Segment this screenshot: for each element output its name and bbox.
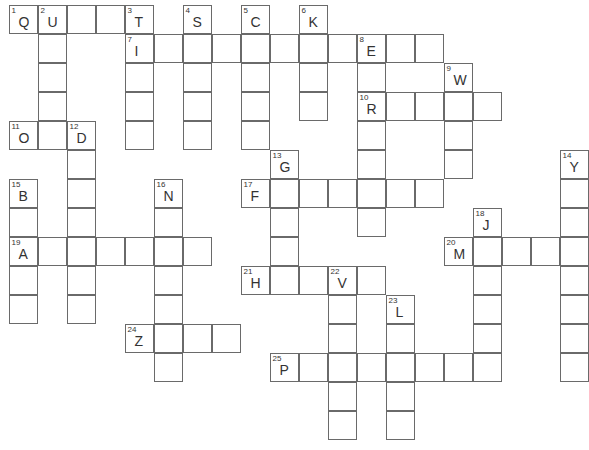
crossword-cell[interactable] (67, 150, 96, 179)
crossword-cell[interactable] (270, 179, 299, 208)
crossword-cell[interactable]: 16N (154, 179, 183, 208)
crossword-cell[interactable] (9, 295, 38, 324)
crossword-cell[interactable] (154, 353, 183, 382)
crossword-cell[interactable] (67, 295, 96, 324)
crossword-cell[interactable]: 19A (9, 237, 38, 266)
crossword-cell[interactable] (473, 353, 502, 382)
crossword-cell[interactable] (38, 34, 67, 63)
crossword-cell[interactable] (357, 121, 386, 150)
crossword-cell[interactable] (415, 34, 444, 63)
crossword-cell[interactable] (38, 121, 67, 150)
crossword-cell[interactable] (299, 266, 328, 295)
crossword-cell[interactable] (38, 237, 67, 266)
crossword-cell[interactable]: 15B (9, 179, 38, 208)
crossword-cell[interactable] (560, 179, 589, 208)
crossword-cell[interactable] (183, 324, 212, 353)
crossword-cell[interactable]: 7I (125, 34, 154, 63)
crossword-cell[interactable] (386, 179, 415, 208)
crossword-cell[interactable] (386, 324, 415, 353)
crossword-cell[interactable]: 4S (183, 5, 212, 34)
crossword-cell[interactable] (212, 34, 241, 63)
crossword-cell[interactable] (154, 266, 183, 295)
crossword-cell[interactable]: 1Q (9, 5, 38, 34)
crossword-cell[interactable] (560, 237, 589, 266)
crossword-cell[interactable] (125, 121, 154, 150)
crossword-cell[interactable] (357, 179, 386, 208)
crossword-cell[interactable] (212, 324, 241, 353)
crossword-cell[interactable] (328, 382, 357, 411)
crossword-cell[interactable]: 17F (241, 179, 270, 208)
crossword-cell[interactable] (96, 237, 125, 266)
crossword-cell[interactable] (270, 237, 299, 266)
crossword-cell[interactable] (444, 92, 473, 121)
crossword-cell[interactable] (415, 92, 444, 121)
crossword-cell[interactable] (328, 179, 357, 208)
crossword-cell[interactable] (125, 63, 154, 92)
crossword-cell[interactable] (38, 63, 67, 92)
crossword-cell[interactable] (270, 208, 299, 237)
crossword-cell[interactable] (415, 179, 444, 208)
crossword-cell[interactable] (9, 266, 38, 295)
crossword-cell[interactable] (154, 295, 183, 324)
crossword-cell[interactable] (328, 411, 357, 440)
crossword-cell[interactable]: 8E (357, 34, 386, 63)
crossword-cell[interactable] (357, 208, 386, 237)
crossword-cell[interactable] (38, 92, 67, 121)
crossword-cell[interactable]: 9W (444, 63, 473, 92)
crossword-cell[interactable]: 12D (67, 121, 96, 150)
crossword-cell[interactable] (183, 121, 212, 150)
crossword-cell[interactable] (386, 353, 415, 382)
crossword-cell[interactable] (386, 411, 415, 440)
crossword-cell[interactable] (154, 208, 183, 237)
crossword-cell[interactable] (328, 295, 357, 324)
crossword-cell[interactable] (328, 324, 357, 353)
crossword-cell[interactable] (473, 92, 502, 121)
crossword-cell[interactable] (415, 353, 444, 382)
crossword-cell[interactable] (299, 34, 328, 63)
crossword-cell[interactable]: 18J (473, 208, 502, 237)
crossword-cell[interactable] (502, 237, 531, 266)
crossword-cell[interactable] (560, 324, 589, 353)
crossword-cell[interactable]: 10R (357, 92, 386, 121)
crossword-cell[interactable]: 20M (444, 237, 473, 266)
crossword-cell[interactable] (183, 92, 212, 121)
crossword-cell[interactable] (241, 92, 270, 121)
crossword-cell[interactable] (183, 63, 212, 92)
crossword-cell[interactable] (473, 324, 502, 353)
crossword-cell[interactable] (444, 121, 473, 150)
crossword-cell[interactable]: 21H (241, 266, 270, 295)
crossword-cell[interactable] (328, 34, 357, 63)
crossword-cell[interactable] (357, 150, 386, 179)
crossword-cell[interactable] (473, 237, 502, 266)
crossword-cell[interactable]: 5C (241, 5, 270, 34)
crossword-cell[interactable] (9, 208, 38, 237)
crossword-cell[interactable] (154, 324, 183, 353)
crossword-cell[interactable]: 22V (328, 266, 357, 295)
crossword-cell[interactable] (125, 237, 154, 266)
crossword-cell[interactable] (473, 266, 502, 295)
crossword-cell[interactable] (96, 5, 125, 34)
crossword-cell[interactable] (67, 266, 96, 295)
crossword-cell[interactable] (299, 92, 328, 121)
crossword-cell[interactable] (444, 150, 473, 179)
crossword-cell[interactable] (473, 295, 502, 324)
crossword-cell[interactable] (299, 179, 328, 208)
crossword-cell[interactable] (241, 63, 270, 92)
crossword-cell[interactable] (357, 266, 386, 295)
crossword-cell[interactable] (560, 295, 589, 324)
crossword-cell[interactable] (67, 208, 96, 237)
crossword-cell[interactable] (560, 208, 589, 237)
crossword-cell[interactable] (183, 237, 212, 266)
crossword-cell[interactable] (299, 353, 328, 382)
crossword-cell[interactable] (154, 237, 183, 266)
crossword-cell[interactable]: 2U (38, 5, 67, 34)
crossword-cell[interactable]: 23L (386, 295, 415, 324)
crossword-cell[interactable] (386, 92, 415, 121)
crossword-cell[interactable] (560, 266, 589, 295)
crossword-cell[interactable] (444, 353, 473, 382)
crossword-cell[interactable]: 24Z (125, 324, 154, 353)
crossword-cell[interactable] (67, 179, 96, 208)
crossword-cell[interactable]: 3T (125, 5, 154, 34)
crossword-cell[interactable] (270, 266, 299, 295)
crossword-cell[interactable] (154, 34, 183, 63)
